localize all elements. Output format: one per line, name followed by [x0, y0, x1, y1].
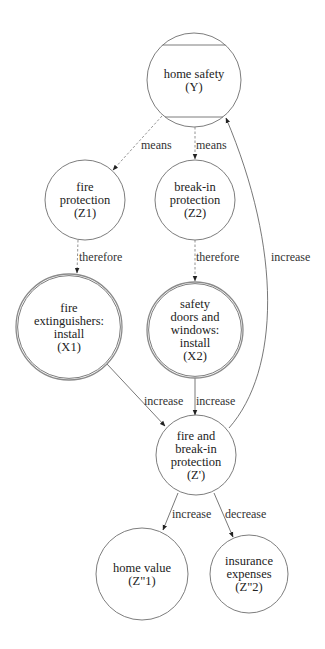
node-label-line: install	[180, 336, 211, 350]
node-label-line: (Z2)	[184, 206, 206, 220]
node-label-line: (Z"2)	[235, 580, 262, 594]
node-Zpp2: insuranceexpenses(Z"2)	[210, 535, 288, 613]
edge-label-therefore: therefore	[196, 250, 239, 264]
edge-label-increase: increase	[144, 394, 183, 408]
node-label-line: (Z1)	[74, 206, 96, 220]
node-X2: safetydoors andwindows:install(X2)	[147, 282, 243, 378]
edge-label-means: means	[196, 138, 227, 152]
edge-label-increase: increase	[271, 250, 310, 264]
node-label-line: fire	[76, 180, 94, 194]
node-label-line: insurance	[225, 554, 273, 568]
node-label-line: windows:	[171, 323, 220, 337]
node-label-line: break-in	[174, 180, 216, 194]
node-Zpp1: home value(Z"1)	[96, 528, 188, 620]
edge-label-increase: increase	[172, 507, 211, 521]
edge-label-therefore: therefore	[79, 250, 122, 264]
node-label-line: doors and	[171, 310, 221, 324]
node-label-line: break-in	[175, 442, 217, 456]
node-Y: home safety(Y)	[147, 33, 241, 127]
node-Zp: fire andbreak-inprotection(Z')	[156, 415, 236, 495]
node-label-line: extinguishers:	[34, 314, 104, 328]
node-Z2: break-inprotection(Z2)	[155, 160, 235, 240]
node-label-line: (Z')	[187, 468, 205, 482]
node-label-line: fire	[60, 301, 78, 315]
edge-line	[77, 240, 78, 273]
node-label-line: protection	[170, 193, 221, 207]
node-label-line: safety	[180, 297, 211, 311]
node-label-line: (X1)	[57, 340, 81, 354]
node-X1: fireextinguishers:install(X1)	[16, 274, 122, 380]
diagram-canvas: home safety(Y)fireprotection(Z1)break-in…	[0, 0, 325, 649]
node-label-line: (X2)	[183, 349, 207, 363]
edge-Z1-to-X1	[77, 240, 78, 273]
causal-diagram: home safety(Y)fireprotection(Z1)break-in…	[0, 0, 325, 649]
edge-label-decrease: decrease	[225, 507, 266, 521]
node-label-line: (Z"1)	[128, 574, 155, 588]
node-label-line: install	[54, 327, 85, 341]
nodes-layer: home safety(Y)fireprotection(Z1)break-in…	[16, 33, 288, 620]
node-label-line: protection	[171, 455, 222, 469]
node-label-line: home value	[113, 561, 171, 575]
node-label-line: fire and	[177, 429, 216, 443]
edge-line	[226, 118, 268, 428]
node-label-line: (Y)	[185, 80, 202, 94]
node-Z1: fireprotection(Z1)	[45, 160, 125, 240]
node-label-line: home safety	[164, 67, 225, 81]
edge-label-increase: increase	[196, 394, 235, 408]
node-label-line: protection	[60, 193, 111, 207]
edge-Zp-to-Y	[226, 118, 268, 428]
edge-label-means: means	[141, 138, 172, 152]
node-label-line: expenses	[226, 567, 271, 581]
